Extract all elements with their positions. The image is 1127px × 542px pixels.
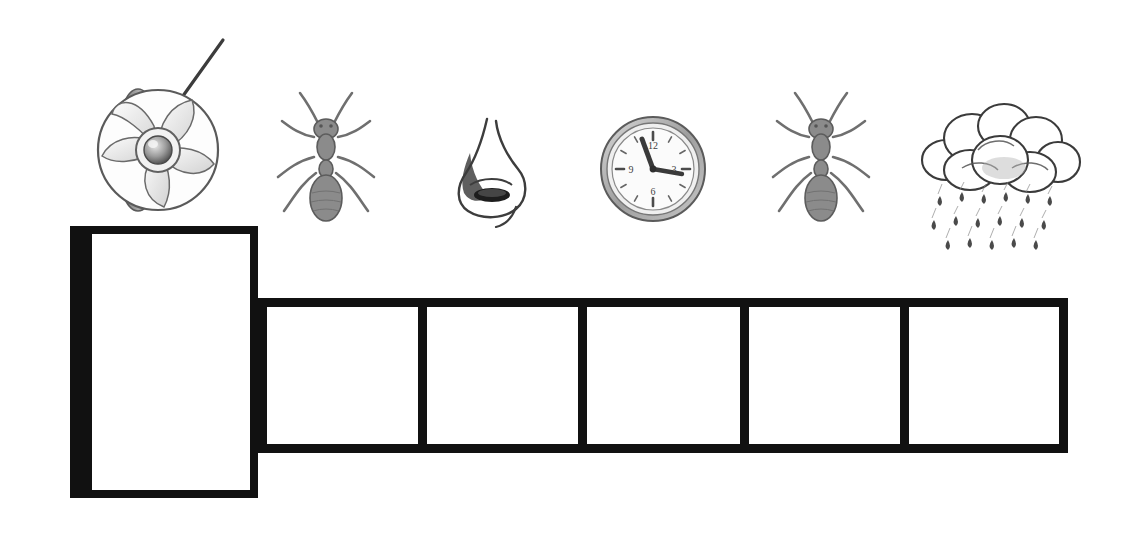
letter-cell-4[interactable] — [740, 307, 900, 444]
letter-box-row — [258, 298, 1068, 453]
letter-cell-5[interactable] — [900, 307, 1068, 444]
letter-cell-2[interactable] — [418, 307, 578, 444]
letter-cell-1[interactable] — [258, 307, 418, 444]
letter-cell-3[interactable] — [578, 307, 740, 444]
worksheet-page: 12 3 6 9 — [0, 0, 1127, 542]
answer-boxes — [0, 0, 1127, 542]
answer-box-large[interactable] — [70, 226, 258, 498]
